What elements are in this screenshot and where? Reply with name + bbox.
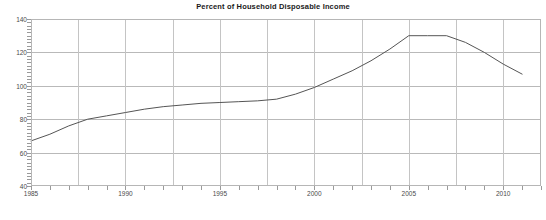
y-minor-tick	[27, 109, 31, 110]
y-minor-tick	[27, 149, 31, 150]
y-minor-tick	[27, 136, 31, 137]
y-minor-tick	[27, 179, 31, 180]
x-axis-labels: 198519901995200020052010	[31, 190, 541, 204]
y-minor-tick	[27, 69, 31, 70]
chart-title: Percent of Household Disposable Income	[0, 2, 546, 11]
y-minor-tick	[27, 173, 31, 174]
y-minor-tick	[27, 143, 31, 144]
y-minor-tick	[27, 42, 31, 43]
y-minor-tick	[27, 66, 31, 67]
y-axis-labels: 406080100120140	[0, 19, 27, 186]
y-minor-tick	[27, 113, 31, 114]
y-minor-tick	[27, 86, 31, 87]
y-minor-tick	[27, 153, 31, 154]
y-minor-tick	[27, 103, 31, 104]
series-polyline	[31, 36, 522, 141]
x-minor-tick	[541, 186, 542, 190]
y-tick-label-60: 60	[1, 149, 27, 156]
y-minor-tick	[27, 76, 31, 77]
y-minor-tick	[27, 139, 31, 140]
y-tick-label-80: 80	[1, 116, 27, 123]
y-minor-tick	[27, 106, 31, 107]
y-minor-tick	[27, 126, 31, 127]
y-minor-tick	[27, 99, 31, 100]
y-minor-tick	[27, 56, 31, 57]
y-minor-tick	[27, 146, 31, 147]
y-tick-label-140: 140	[1, 16, 27, 23]
y-minor-tick	[27, 96, 31, 97]
y-minor-tick	[27, 62, 31, 63]
y-minor-tick	[27, 89, 31, 90]
x-tick-label-2000: 2000	[307, 190, 321, 197]
x-tick-label-2005: 2005	[402, 190, 416, 197]
y-minor-tick	[27, 82, 31, 83]
y-minor-tick	[27, 49, 31, 50]
chart-container: Percent of Household Disposable Income 4…	[0, 0, 546, 220]
y-minor-tick	[27, 19, 31, 20]
y-minor-tick	[27, 72, 31, 73]
y-minor-tick	[27, 169, 31, 170]
y-minor-tick	[27, 29, 31, 30]
y-tick-label-40: 40	[1, 183, 27, 190]
x-tick-label-1985: 1985	[24, 190, 38, 197]
y-tick-label-100: 100	[1, 82, 27, 89]
y-minor-tick	[27, 123, 31, 124]
y-minor-tick	[27, 119, 31, 120]
y-minor-tick	[27, 22, 31, 23]
y-minor-tick	[27, 52, 31, 53]
y-minor-tick	[27, 36, 31, 37]
y-minor-tick	[27, 133, 31, 134]
y-minor-tick	[27, 156, 31, 157]
x-tick-label-2010: 2010	[496, 190, 510, 197]
y-tick-label-120: 120	[1, 49, 27, 56]
y-minor-tick	[27, 183, 31, 184]
y-minor-tick	[27, 116, 31, 117]
x-tick-label-1995: 1995	[213, 190, 227, 197]
y-minor-tick	[27, 39, 31, 40]
y-minor-tick	[27, 79, 31, 80]
y-minor-tick	[27, 26, 31, 27]
y-minor-tick	[27, 166, 31, 167]
y-minor-tick	[27, 46, 31, 47]
y-minor-tick	[27, 159, 31, 160]
y-minor-tick	[27, 59, 31, 60]
y-minor-tick	[27, 129, 31, 130]
y-minor-tick	[27, 176, 31, 177]
y-minor-tick	[27, 92, 31, 93]
data-series-line	[31, 19, 541, 186]
x-tick-label-1990: 1990	[118, 190, 132, 197]
y-minor-tick	[27, 32, 31, 33]
y-minor-tick	[27, 163, 31, 164]
